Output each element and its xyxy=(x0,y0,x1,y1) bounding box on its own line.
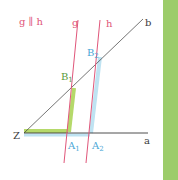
label-b: b xyxy=(145,17,151,28)
label-a1: A1 xyxy=(67,140,80,153)
line-b xyxy=(24,19,143,133)
caption: g ∥ h xyxy=(19,16,43,27)
label-b1: B1 xyxy=(61,71,73,84)
label-g: g xyxy=(72,17,79,28)
intercept-theorem-diagram: g ∥ h g h b a Z A1 A2 B1 B2 xyxy=(0,0,178,180)
side-band xyxy=(163,0,178,180)
label-z: Z xyxy=(13,130,20,141)
label-a: a xyxy=(144,135,150,146)
highlight-segment-a1-b1 xyxy=(69,88,74,132)
label-a2: A2 xyxy=(91,140,104,153)
label-h: h xyxy=(106,18,113,29)
